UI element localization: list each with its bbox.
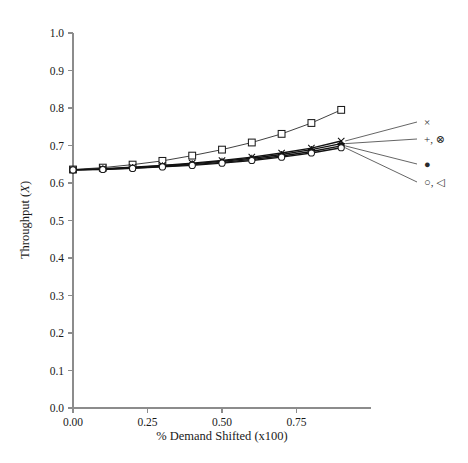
legend-label: ●: [424, 158, 431, 170]
marker-circle-open: [100, 166, 106, 172]
marker-circle-open: [279, 154, 285, 160]
marker-square-open: [248, 139, 255, 146]
y-tick-label: 1.0: [50, 27, 65, 39]
y-tick-label: 0.4: [50, 252, 65, 264]
y-tick-label: 0.0: [50, 402, 65, 414]
y-tick-label: 0.1: [50, 365, 65, 377]
y-tick-label: 0.5: [50, 215, 65, 227]
marker-square-open: [338, 106, 345, 113]
y-axis-title: Throughput (X): [18, 181, 32, 259]
marker-circle-open: [308, 150, 314, 156]
y-tick-label: 0.8: [50, 102, 65, 114]
y-axis-title-prefix: Throughput (: [18, 193, 32, 259]
marker-circle-open: [189, 162, 195, 168]
marker-circle-open: [70, 167, 76, 173]
y-tick-label: 0.6: [50, 177, 65, 189]
chart-background: [0, 0, 468, 463]
y-tick-label: 0.9: [50, 65, 65, 77]
marker-circle-open: [249, 157, 255, 163]
marker-square-open: [189, 152, 196, 159]
y-axis-title-suffix: ): [18, 181, 32, 185]
y-tick-label: 0.3: [50, 290, 65, 302]
x-tick-label: 0.75: [286, 416, 306, 428]
legend-label: +, ⊗: [424, 133, 445, 145]
x-tick-label: 0.50: [212, 416, 232, 428]
marker-circle-open: [338, 145, 344, 151]
x-tick-label: 0.00: [63, 416, 83, 428]
x-tick-label: 0.25: [137, 416, 157, 428]
y-tick-label: 0.2: [50, 327, 65, 339]
marker-square-open: [278, 130, 285, 137]
legend-label: ○, ◁: [424, 176, 445, 188]
marker-square-open: [219, 146, 226, 153]
marker-circle-open: [159, 164, 165, 170]
throughput-line-chart: 0.00.10.20.30.40.50.60.70.80.91.0 0.000.…: [0, 0, 468, 463]
x-axis-title: % Demand Shifted (x100): [156, 429, 288, 443]
marker-circle-open: [219, 160, 225, 166]
legend-label: ×: [424, 116, 430, 128]
marker-square-open: [308, 120, 315, 127]
svg-text:Throughput (X): Throughput (X): [18, 181, 32, 259]
y-tick-label: 0.7: [50, 140, 65, 152]
marker-circle-open: [130, 165, 136, 171]
